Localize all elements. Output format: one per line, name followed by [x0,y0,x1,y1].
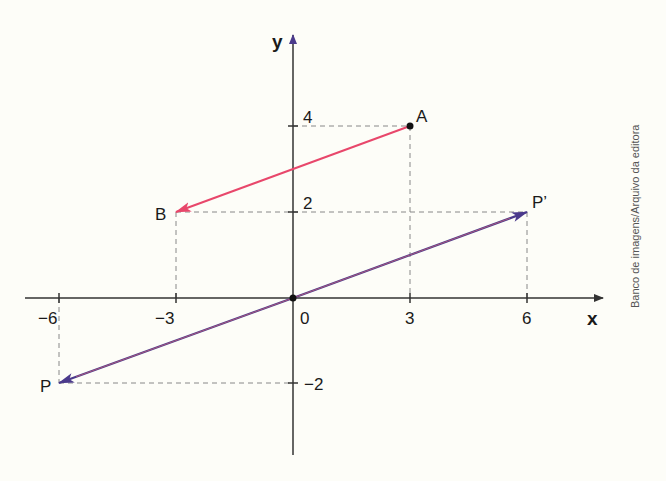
point-b-label: B [155,205,166,224]
vector-op-overlay [76,298,293,377]
y-tick-label-4: 4 [303,108,312,127]
point-a-dot [407,123,414,130]
point-a-label: A [416,107,428,126]
x-tick-label-neg3: −3 [155,309,174,328]
y-axis-label: y [272,31,283,52]
x-axis-label: x [587,308,598,329]
x-tick-label-6: 6 [522,309,531,328]
origin-dot [290,295,297,302]
y-tick-label-neg2: −2 [304,375,323,394]
point-p-label: P [40,377,51,396]
point-p-prime-label: P’ [532,193,547,212]
coordinate-plane: y x −6 −3 0 3 6 4 2 −2 A B P’ P Banco de… [0,0,666,481]
image-credit: Banco de imagens/Arquivo da editora [629,124,641,308]
origin-label: 0 [300,309,309,328]
x-tick-label-neg6: −6 [38,309,57,328]
y-tick-label-2: 2 [303,194,312,213]
x-tick-label-3: 3 [405,309,414,328]
vector-op-prime-overlay [293,218,510,298]
